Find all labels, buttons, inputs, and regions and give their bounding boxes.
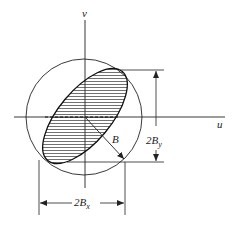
u-axis-label: u <box>217 118 223 130</box>
radius-label: B <box>112 133 119 145</box>
v-axis-label: v <box>82 7 87 19</box>
ellipse-in-circle-diagram: B 2By 2Bx u v <box>0 0 235 227</box>
height-label: 2By <box>146 134 162 149</box>
width-label: 2Bx <box>74 196 90 211</box>
